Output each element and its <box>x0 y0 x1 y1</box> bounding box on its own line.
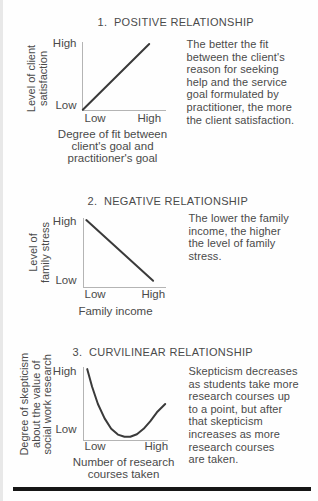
chart2-x-axis-label: Family income <box>41 305 191 317</box>
chart3-x-tick-low: Low <box>85 441 106 452</box>
chart3-y-tick-high: High <box>41 366 77 377</box>
chart2-negative-line <box>86 220 153 281</box>
bottom-rule <box>13 487 311 491</box>
chart3-description: Skepticism decreases as students take mo… <box>189 365 317 466</box>
chart1-description: The better the fit between the client's … <box>187 38 317 126</box>
chart1-y-tick-low: Low <box>41 100 77 111</box>
chart3-x-tick-high: High <box>145 441 169 452</box>
figure-relationship-types: 1. POSITIVE RELATIONSHIP Level of client… <box>3 0 318 501</box>
chart2-title: 2. NEGATIVE RELATIONSHIP <box>88 195 249 207</box>
chart3-y-tick-low: Low <box>41 424 77 435</box>
chart1-y-tick-high: High <box>41 38 77 49</box>
chart2-y-tick-low: Low <box>41 275 77 286</box>
chart2-description: The lower the family income, the higher … <box>189 212 315 262</box>
chart3-x-axis-label: Number of research courses taken <box>49 456 199 480</box>
chart1-positive-line <box>82 44 148 110</box>
chart1-x-tick-low: Low <box>85 113 106 124</box>
chart3-title: 3. CURVILINEAR RELATIONSHIP <box>73 346 253 358</box>
chart2-x-tick-low: Low <box>85 289 106 300</box>
chart2-y-tick-high: High <box>41 216 77 227</box>
chart1-x-axis-label: Degree of fit between client's goal and … <box>38 128 188 164</box>
chart3-curvilinear-line <box>87 369 165 437</box>
chart2-x-tick-high: High <box>142 289 166 300</box>
chart1-title: 1. POSITIVE RELATIONSHIP <box>98 16 254 28</box>
chart1-x-tick-high: High <box>138 113 162 124</box>
